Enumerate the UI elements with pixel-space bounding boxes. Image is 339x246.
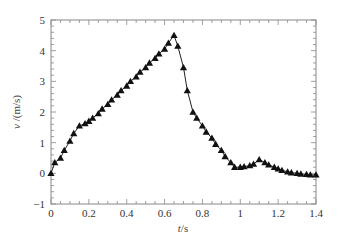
triangle-marker xyxy=(180,64,187,70)
triangle-marker xyxy=(161,46,168,52)
x-tick-label: 0.4 xyxy=(120,207,134,219)
triangle-marker xyxy=(184,87,191,93)
data-series xyxy=(47,32,319,178)
y-tick-label: 4 xyxy=(40,45,46,57)
y-tick-label: 5 xyxy=(40,14,46,26)
triangle-marker xyxy=(174,42,181,48)
y-axis-label: v /(m/s) xyxy=(10,95,23,129)
x-tick-label: 1 xyxy=(238,207,244,219)
x-tick-label: 1.2 xyxy=(271,207,285,219)
x-tick-label: 0 xyxy=(48,207,54,219)
triangle-marker xyxy=(47,170,54,176)
triangle-marker xyxy=(203,128,210,134)
chart-svg: 00.20.40.60.811.21.4 −1012345 t/s v /(m/… xyxy=(0,0,339,246)
y-tick-label: 0 xyxy=(40,167,46,179)
x-tick-label: 0.2 xyxy=(82,207,96,219)
triangle-marker xyxy=(61,147,68,153)
x-axis-label: t/s xyxy=(178,222,188,234)
triangle-marker xyxy=(212,141,219,147)
plot-frame xyxy=(51,20,316,204)
triangle-marker xyxy=(222,153,229,159)
x-tick-label: 1.4 xyxy=(309,207,323,219)
y-tick-label: −1 xyxy=(33,198,45,210)
triangle-marker xyxy=(66,138,73,144)
x-tick-label: 0.6 xyxy=(158,207,172,219)
triangle-marker xyxy=(189,108,196,114)
series-line xyxy=(51,35,316,175)
triangle-marker xyxy=(57,154,64,160)
y-tick-label: 1 xyxy=(40,137,46,149)
axis-ticks xyxy=(51,20,316,204)
y-tick-label: 2 xyxy=(40,106,46,118)
x-tick-labels: 00.20.40.60.811.21.4 xyxy=(48,207,323,219)
y-tick-labels: −1012345 xyxy=(33,14,45,210)
triangle-marker xyxy=(256,156,263,162)
x-tick-label: 0.8 xyxy=(196,207,210,219)
y-tick-label: 3 xyxy=(40,75,46,87)
triangle-marker xyxy=(170,32,177,38)
triangle-marker xyxy=(193,115,200,121)
